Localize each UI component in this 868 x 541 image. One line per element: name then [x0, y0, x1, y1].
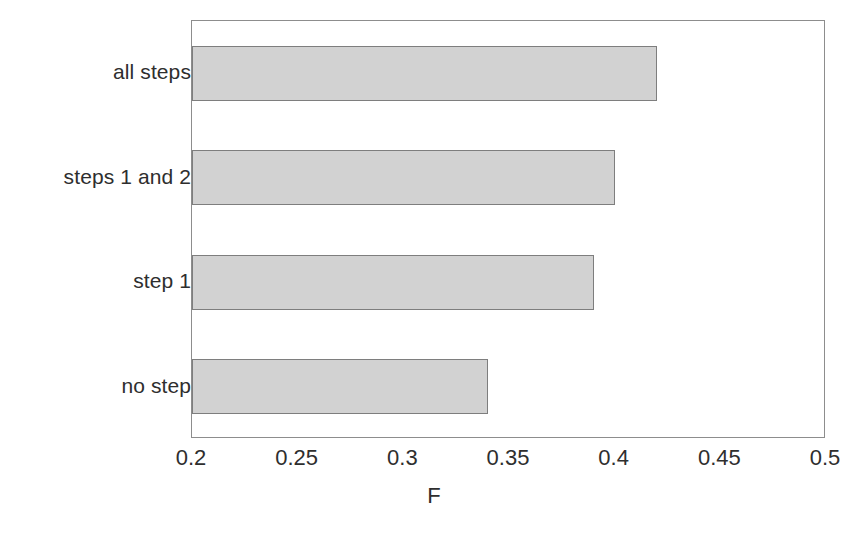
x-tick-0.45: 0.45 [698, 447, 741, 469]
bars-layer [192, 21, 824, 437]
plot-area [191, 20, 825, 438]
figure-caption [0, 527, 868, 541]
x-tick-0.3: 0.3 [387, 447, 418, 469]
x-tick-0.2: 0.2 [176, 447, 207, 469]
x-tick-0.35: 0.35 [487, 447, 530, 469]
bar-steps-1-and-2 [192, 150, 615, 205]
x-tick-0.4: 0.4 [598, 447, 629, 469]
bar-no-step [192, 359, 488, 414]
y-axis-label-steps-1-and-2: steps 1 and 2 [64, 166, 191, 187]
y-axis-label-all-steps: all steps [113, 61, 191, 82]
y-axis-label-step-1: step 1 [133, 270, 191, 291]
bar-all-steps [192, 46, 657, 101]
x-axis-title: F [0, 484, 868, 508]
x-tick-0.25: 0.25 [275, 447, 318, 469]
y-axis-label-no-step: no step [121, 375, 191, 396]
x-tick-0.5: 0.5 [810, 447, 841, 469]
bar-chart-figure: all stepssteps 1 and 2step 1no step 0.20… [0, 0, 868, 541]
bar-step-1 [192, 255, 594, 310]
